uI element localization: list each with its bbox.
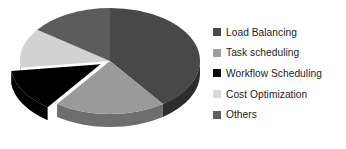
legend-swatch-icon [213,49,221,57]
legend-label: Cost Optimization [226,89,307,100]
chart-legend: Load Balancing Task scheduling Workflow … [211,22,346,125]
legend-label: Workflow Scheduling [226,68,322,79]
legend-label: Task scheduling [226,47,299,58]
legend-swatch-icon [213,111,221,119]
legend-item-workflow-scheduling[interactable]: Workflow Scheduling [211,63,346,84]
legend-swatch-icon [213,69,221,77]
pie-svg [0,0,212,149]
legend-swatch-icon [213,28,221,36]
legend-label: Load Balancing [226,27,297,38]
legend-item-others[interactable]: Others [211,104,346,125]
legend-label: Others [226,109,257,120]
legend-item-load-balancing[interactable]: Load Balancing [211,22,346,43]
legend-swatch-icon [213,90,221,98]
pie-plot-area [0,0,212,149]
legend-item-task-scheduling[interactable]: Task scheduling [211,43,346,64]
pie-chart-figure: Load Balancing Task scheduling Workflow … [0,0,346,149]
pie-slice-tops [11,8,200,114]
legend-item-cost-optimization[interactable]: Cost Optimization [211,84,346,105]
